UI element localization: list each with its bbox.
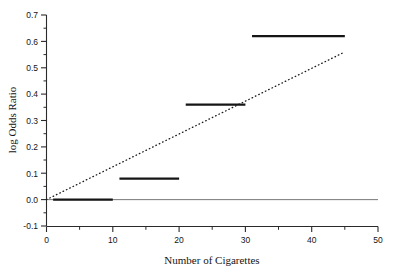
y-tick-label: 0.7 <box>26 10 38 20</box>
y-tick-label: 0.0 <box>26 195 38 205</box>
y-tick-label: 0.2 <box>26 142 38 152</box>
x-tick-label: 20 <box>174 235 184 245</box>
y-tick-label: 0.3 <box>26 116 38 126</box>
chart-figure: 0.7 0.6 0.5 0.4 0.3 0.2 0.1 0.0 -0.1 log… <box>0 0 393 279</box>
y-tick-label: 0.4 <box>26 89 38 99</box>
y-tick-label: -0.1 <box>23 221 38 231</box>
y-axis-title: log Odds Ratio <box>6 86 18 153</box>
x-tick-label: 40 <box>307 235 317 245</box>
x-axis-title: Number of Cigarettes <box>164 254 259 266</box>
y-tick-label: 0.6 <box>26 37 38 47</box>
x-tick-label: 50 <box>373 235 383 245</box>
x-tick-label: 30 <box>241 235 251 245</box>
x-tick-label: 10 <box>108 235 118 245</box>
y-tick-label: 0.5 <box>26 63 38 73</box>
chart-background <box>0 0 393 279</box>
x-tick-label: 0 <box>44 235 49 245</box>
y-tick-labels: 0.7 0.6 0.5 0.4 0.3 0.2 0.1 0.0 -0.1 <box>23 10 38 231</box>
y-tick-label: 0.1 <box>26 169 38 179</box>
